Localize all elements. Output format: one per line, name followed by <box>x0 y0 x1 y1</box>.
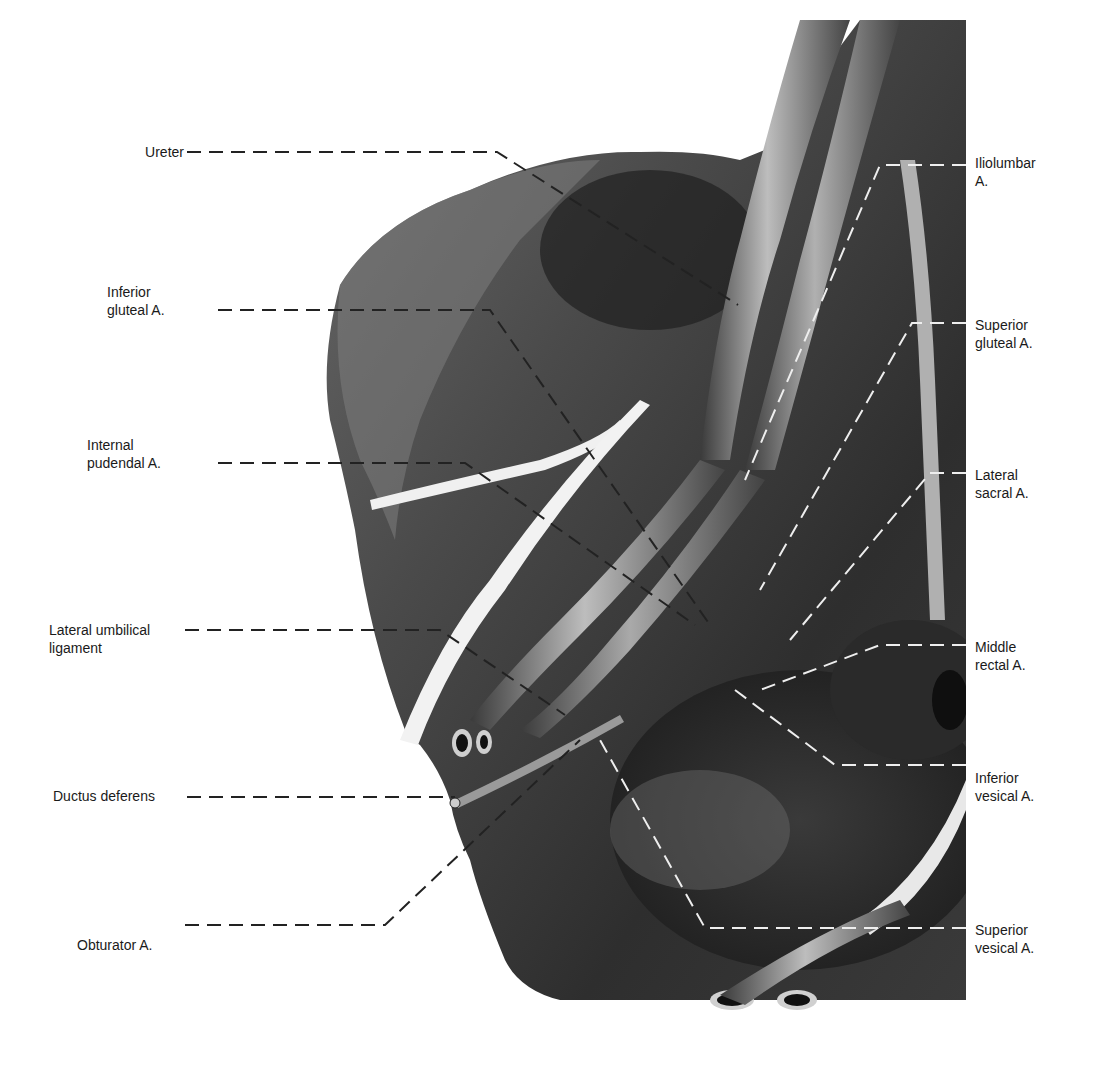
tissue-body <box>327 20 990 1010</box>
label-superior-gluteal: Superior gluteal A. <box>975 316 1033 352</box>
label-ductus-deferens: Ductus deferens <box>53 787 155 805</box>
label-inferior-gluteal: Inferior gluteal A. <box>107 283 165 319</box>
label-lateral-umbilical: Lateral umbilical ligament <box>49 621 150 657</box>
label-internal-pudendal: Internal pudendal A. <box>87 436 161 472</box>
label-obturator: Obturator A. <box>77 936 152 954</box>
anatomy-illustration <box>0 0 1104 1074</box>
label-inferior-vesical: Inferior vesical A. <box>975 769 1034 805</box>
label-iliolumbar: Iliolumbar A. <box>975 154 1036 190</box>
label-superior-vesical: Superior vesical A. <box>975 921 1034 957</box>
label-middle-rectal: Middle rectal A. <box>975 638 1026 674</box>
label-lateral-sacral: Lateral sacral A. <box>975 466 1029 502</box>
label-ureter: Ureter <box>145 143 184 161</box>
